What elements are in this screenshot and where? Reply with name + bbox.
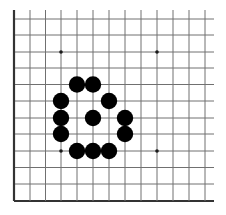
black-stone [53,126,69,142]
go-board [0,0,226,215]
star-point [59,50,63,54]
black-stone [85,143,101,159]
black-stone [53,110,69,126]
star-point [155,50,159,54]
star-point [59,149,63,153]
black-stone [85,110,101,126]
black-stone [69,143,85,159]
black-stone [85,76,101,92]
black-stone [117,126,133,142]
black-stone [69,76,85,92]
black-stone [101,143,117,159]
star-point [155,149,159,153]
black-stone [117,110,133,126]
black-stone [101,93,117,109]
black-stone [53,93,69,109]
